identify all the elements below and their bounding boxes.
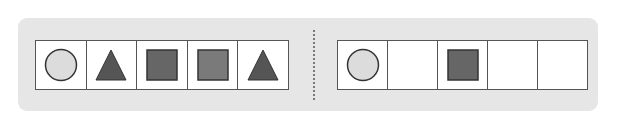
puzzle-panel: [18, 18, 598, 111]
answer-cell-3: [438, 41, 488, 89]
pattern-strip: [35, 40, 289, 90]
circle-icon: [346, 48, 380, 82]
answer-cell-4[interactable]: [488, 41, 538, 89]
triangle-icon: [94, 48, 128, 82]
answer-cell-5[interactable]: [538, 41, 587, 89]
answer-strip: [337, 40, 588, 90]
square-dark-icon: [146, 49, 178, 81]
triangle-icon: [246, 48, 280, 82]
answer-cell-1: [338, 41, 388, 89]
circle-icon: [44, 48, 78, 82]
pattern-cell-1: [36, 41, 87, 89]
pattern-cell-2: [87, 41, 138, 89]
square-dark-icon: [447, 49, 479, 81]
pattern-cell-3: [137, 41, 188, 89]
dotted-separator: [313, 30, 315, 100]
pattern-cell-4: [188, 41, 239, 89]
square-light-icon: [197, 49, 229, 81]
answer-cell-2[interactable]: [388, 41, 438, 89]
pattern-cell-5: [238, 41, 288, 89]
